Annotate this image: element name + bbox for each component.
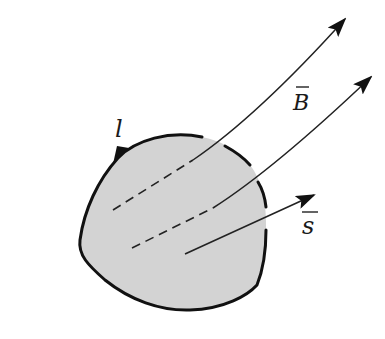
diagram-canvas: l B s [0, 0, 385, 339]
label-normal: s [302, 212, 318, 240]
diagram-svg: l B s [0, 0, 385, 339]
label-field: B [292, 87, 309, 115]
label-contour: l [115, 115, 123, 143]
field-line-1 [193, 19, 345, 160]
label-normal-text: s [302, 212, 314, 240]
label-field-text: B [292, 90, 309, 115]
